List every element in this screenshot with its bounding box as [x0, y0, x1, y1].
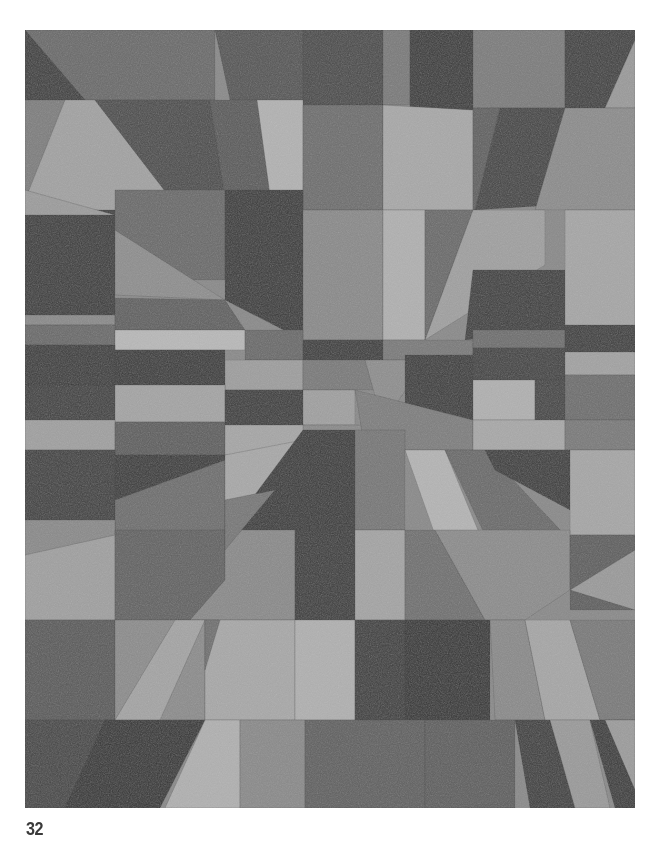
quilt-patch — [115, 385, 225, 422]
quilt-patch — [410, 30, 473, 110]
quilt-patchwork-image — [25, 30, 635, 808]
quilt-patch — [565, 420, 635, 450]
quilt-patch — [295, 620, 355, 720]
quilt-patch — [295, 530, 355, 620]
quilt-patch — [115, 350, 225, 385]
quilt-patch — [115, 422, 225, 455]
quilt-patch — [225, 360, 303, 390]
quilt-patch — [405, 620, 490, 720]
quilt-patch — [565, 325, 635, 352]
quilt-patch — [355, 430, 405, 530]
quilt-patch — [205, 620, 295, 720]
quilt-patch — [25, 420, 115, 450]
quilt-patch — [473, 420, 565, 450]
quilt-patch — [473, 348, 565, 380]
quilt-patch — [215, 30, 303, 100]
quilt-patch — [565, 352, 635, 375]
quilt-patch — [465, 270, 565, 340]
quilt-patch — [565, 375, 635, 420]
quilt-patch — [355, 530, 405, 620]
quilt-patch — [305, 720, 425, 808]
quilt-patch — [25, 385, 115, 420]
quilt-patch — [240, 720, 305, 808]
quilt-patch — [25, 450, 115, 520]
quilt-patch — [303, 30, 383, 105]
page-number: 32 — [26, 818, 43, 840]
quilt-patch — [25, 345, 115, 385]
quilt-patch — [303, 340, 383, 360]
quilt-patch — [535, 380, 565, 420]
quilt-patch — [245, 330, 303, 360]
quilt-patch — [355, 620, 405, 720]
quilt-patch — [383, 105, 473, 210]
quilt-patch — [25, 325, 115, 345]
quilt-photograph — [25, 30, 635, 808]
quilt-patches — [25, 30, 635, 808]
quilt-patch — [565, 210, 635, 330]
quilt-patch — [303, 390, 355, 425]
quilt-patch — [425, 720, 515, 808]
quilt-patch — [383, 30, 410, 105]
quilt-patch — [115, 298, 245, 330]
quilt-patch — [383, 210, 425, 340]
quilt-patch — [115, 330, 245, 350]
quilt-patch — [303, 105, 383, 210]
quilt-patch — [473, 380, 535, 420]
quilt-patch — [570, 450, 635, 535]
quilt-patch — [225, 390, 303, 425]
quilt-patch — [25, 315, 115, 325]
quilt-patch — [473, 30, 565, 108]
quilt-patch — [473, 330, 565, 348]
quilt-patch — [303, 210, 383, 340]
quilt-patch — [25, 210, 115, 315]
quilt-patch — [25, 620, 115, 720]
